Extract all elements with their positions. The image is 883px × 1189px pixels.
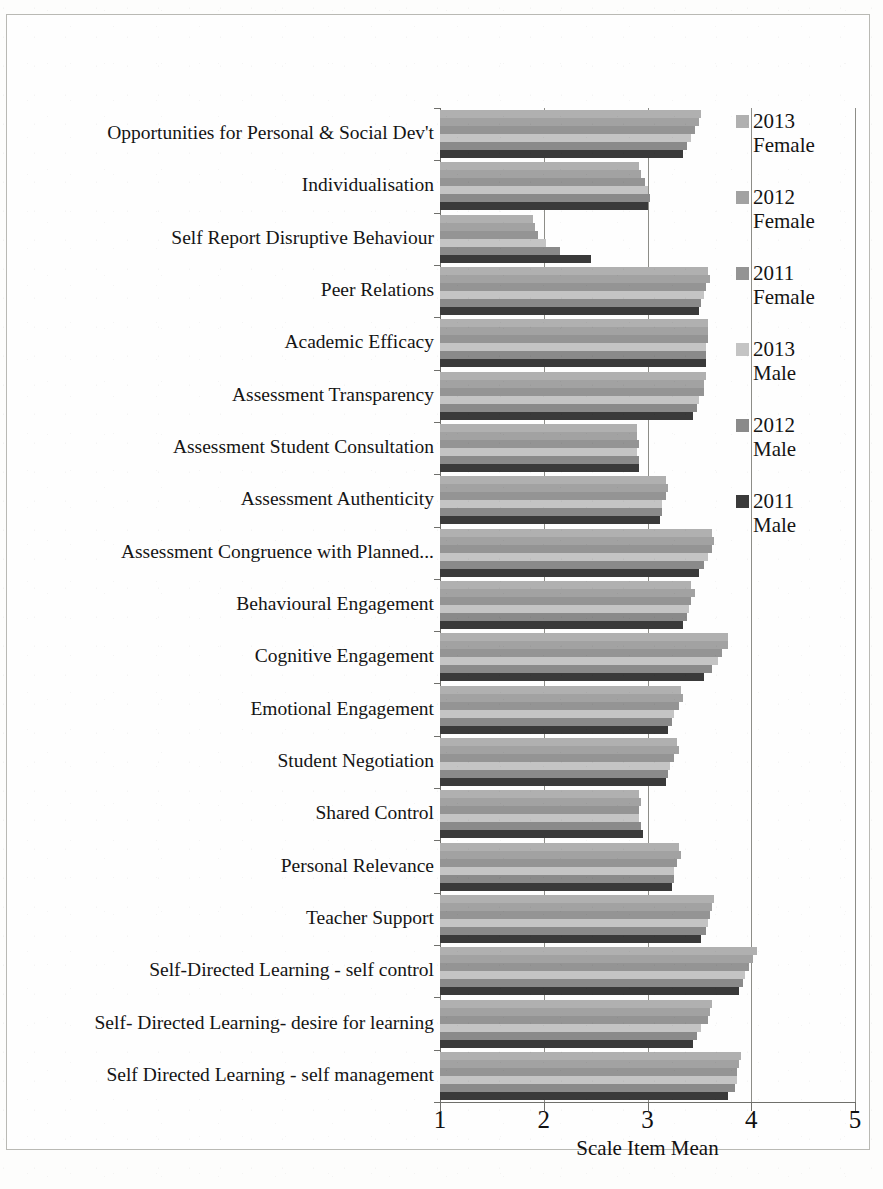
figure-scanned-page: Opportunities for Personal & Social Dev'… [0, 0, 883, 1189]
bar-group [440, 579, 855, 631]
bar [440, 178, 645, 186]
bar [440, 307, 699, 315]
y-axis-category-label: Teacher Support [10, 907, 434, 929]
y-axis-category-label: Personal Relevance [10, 855, 434, 877]
bar [440, 979, 743, 987]
legend-label: 2013 Female [753, 110, 815, 157]
bar [440, 1008, 710, 1016]
bar [440, 798, 641, 806]
bar [440, 134, 691, 142]
bar [440, 935, 701, 943]
bar [440, 150, 683, 158]
bar [440, 589, 695, 597]
legend-swatch [736, 191, 749, 204]
bar [440, 754, 674, 762]
bar [440, 830, 643, 838]
bar [440, 1032, 697, 1040]
bar [440, 545, 712, 553]
bar [440, 1084, 735, 1092]
x-tick-label: 1 [420, 1106, 460, 1134]
y-axis-category-label: Self Directed Learning - self management [10, 1064, 434, 1086]
y-axis-category-label: Assessment Transparency [10, 384, 434, 406]
bar-group [440, 788, 855, 840]
y-axis-category-label: Assessment Authenticity [10, 488, 434, 510]
bar [440, 581, 691, 589]
x-tick-label: 2 [524, 1106, 564, 1134]
bar [440, 1092, 728, 1100]
bar [440, 569, 699, 577]
x-tick-label: 3 [628, 1106, 668, 1134]
bar [440, 927, 706, 935]
bar [440, 484, 668, 492]
bar [440, 790, 639, 798]
bar [440, 239, 546, 247]
bar [440, 686, 681, 694]
plot-area [440, 108, 855, 1102]
bar [440, 380, 704, 388]
legend-swatch [736, 343, 749, 356]
legend-item: 2012 Male [736, 414, 866, 461]
bar [440, 118, 699, 126]
bar [440, 859, 677, 867]
y-axis-category-label: Shared Control [10, 802, 434, 824]
bar [440, 553, 708, 561]
bar [440, 1040, 693, 1048]
bar [440, 142, 687, 150]
bar [440, 851, 681, 859]
bar [440, 814, 639, 822]
bar [440, 537, 714, 545]
bar [440, 110, 701, 118]
bar-group [440, 997, 855, 1049]
bar [440, 1052, 741, 1060]
bar [440, 327, 708, 335]
bar [440, 424, 637, 432]
legend-label: 2012 Male [753, 414, 796, 461]
y-axis-category-label: Self-Directed Learning - self control [10, 959, 434, 981]
y-axis-category-label: Assessment Student Consultation [10, 436, 434, 458]
bar [440, 822, 641, 830]
bar [440, 291, 704, 299]
bar [440, 404, 697, 412]
bar [440, 702, 679, 710]
legend-item: 2013 Male [736, 338, 866, 385]
bar [440, 299, 701, 307]
bar [440, 641, 728, 649]
bar [440, 726, 668, 734]
bar [440, 883, 672, 891]
bar [440, 275, 710, 283]
legend-label: 2011 Female [753, 262, 815, 309]
legend-swatch [736, 267, 749, 280]
bar [440, 806, 639, 814]
y-axis-category-label: Individualisation [10, 174, 434, 196]
legend-label: 2013 Male [753, 338, 796, 385]
y-axis-category-label: Opportunities for Personal & Social Dev'… [10, 122, 434, 144]
bar [440, 202, 648, 210]
bar [440, 448, 637, 456]
y-axis-category-label: Academic Efficacy [10, 331, 434, 353]
bar [440, 194, 650, 202]
bar [440, 126, 695, 134]
bar [440, 396, 699, 404]
bar [440, 778, 666, 786]
bar [440, 529, 712, 537]
legend-swatch [736, 495, 749, 508]
bar [440, 987, 739, 995]
bar [440, 1068, 737, 1076]
legend-label: 2012 Female [753, 186, 815, 233]
bar-group [440, 631, 855, 683]
bar [440, 215, 533, 223]
bar [440, 971, 745, 979]
bar [440, 1076, 737, 1084]
bar [440, 694, 683, 702]
bar [440, 963, 749, 971]
bar [440, 738, 677, 746]
bar-group [440, 683, 855, 735]
bar [440, 875, 674, 883]
bar [440, 267, 708, 275]
bar [440, 947, 757, 955]
bar [440, 633, 728, 641]
bar [440, 867, 674, 875]
bar [440, 432, 637, 440]
y-axis-category-label: Peer Relations [10, 279, 434, 301]
legend-swatch [736, 115, 749, 128]
